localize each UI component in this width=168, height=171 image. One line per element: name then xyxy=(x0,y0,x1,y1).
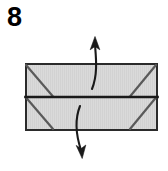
origami-step-figure: 8 xyxy=(0,0,168,171)
origami-diagram xyxy=(0,0,168,171)
